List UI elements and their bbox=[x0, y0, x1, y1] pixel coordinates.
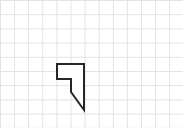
shape-layer bbox=[0, 0, 183, 128]
notched-polygon-shape[interactable] bbox=[57, 64, 84, 110]
drawing-canvas bbox=[0, 0, 183, 128]
